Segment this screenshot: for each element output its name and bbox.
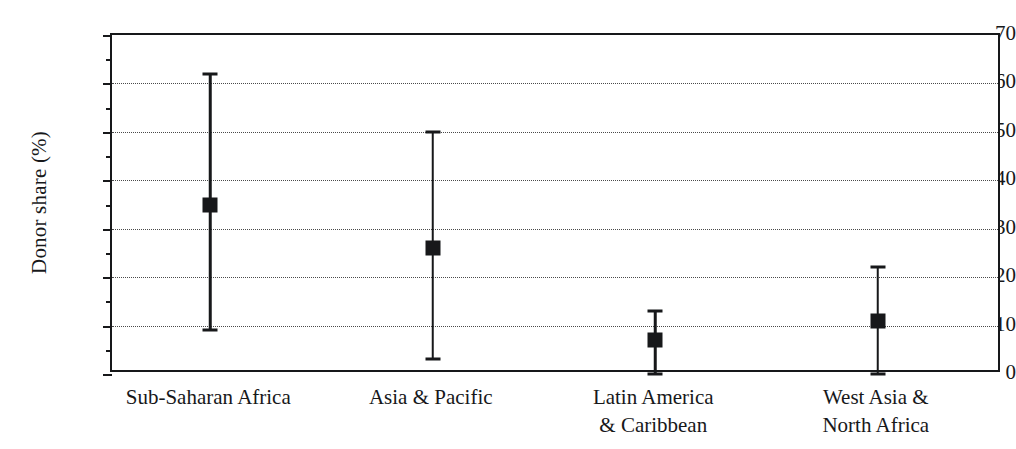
plot-frame [110,33,1000,372]
gridline [112,180,998,181]
gridline [112,229,998,230]
y-tick-major [103,83,112,85]
gridline [112,277,998,278]
errorbar-cap-lower [648,373,663,376]
y-tick-minor [106,205,112,207]
errorbar-cap-upper [203,72,218,75]
errorbar-cap-lower [203,329,218,332]
y-tick-major [103,180,112,182]
y-tick-minor [106,156,112,158]
y-axis-title: Donor share (%) [26,33,52,372]
data-point-marker [870,313,885,328]
errorbar-cap-lower [870,373,885,376]
data-point-marker [425,241,440,256]
gridline [112,83,998,84]
errorbar-cap-upper [870,266,885,269]
y-tick-minor [106,253,112,255]
data-point-marker [648,333,663,348]
y-tick-major [103,326,112,328]
category-label: West Asia & North Africa [765,384,988,440]
gridline [112,326,998,327]
y-tick-minor [106,301,112,303]
y-tick-minor [106,108,112,110]
category-label: Latin America & Caribbean [542,384,765,440]
errorbar-cap-upper [425,130,440,133]
y-tick-minor [106,350,112,352]
y-tick-major [103,35,112,37]
y-tick-major [103,374,112,376]
category-label: Sub-Saharan Africa [97,384,320,412]
y-tick-major [103,132,112,134]
y-tick-major [103,229,112,231]
chart-page: Donor share (%) 010203040506070 Sub-Saha… [0,0,1016,449]
y-tick-minor [106,59,112,61]
data-point-marker [203,197,218,212]
gridline [112,132,998,133]
y-tick-major [103,277,112,279]
errorbar-cap-lower [425,358,440,361]
errorbar-cap-upper [648,310,663,313]
category-label: Asia & Pacific [320,384,543,412]
